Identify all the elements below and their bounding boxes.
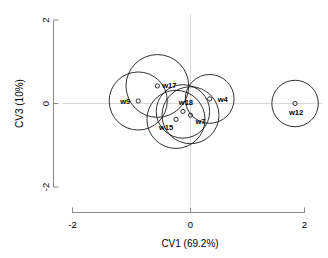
x-tick-label-neg2: -2 — [68, 219, 76, 230]
y-axis-title: CV3 (10%) — [14, 79, 25, 128]
marker-w9 — [136, 99, 140, 103]
x-tick-label-0: 0 — [188, 219, 193, 230]
point-label-w12: w12 — [288, 108, 303, 117]
confidence-circle-w17 — [126, 55, 189, 118]
marker-w18 — [181, 109, 185, 113]
scatter-plot-figure: 2 0 -2 CV3 (10%) -2 0 2 CV1 (69.2%) w9w1… — [0, 0, 328, 258]
marker-w4 — [208, 97, 212, 101]
marker-w17 — [155, 84, 159, 88]
x-axis: -2 0 2 CV1 (69.2%) — [68, 208, 307, 250]
y-tick-label-0: 0 — [40, 101, 51, 106]
plot-canvas: 2 0 -2 CV3 (10%) -2 0 2 CV1 (69.2%) w9w1… — [0, 0, 328, 258]
x-axis-title: CV1 (69.2%) — [161, 238, 218, 249]
y-tick-label-neg2: -2 — [40, 183, 51, 191]
x-tick-label-2: 2 — [302, 219, 307, 230]
point-label-w4: w4 — [217, 95, 229, 104]
data-points-layer: w9w17w18w15w7w4w12 — [109, 55, 318, 149]
data-point-w17[interactable]: w17 — [126, 55, 189, 118]
y-tick-label-2: 2 — [40, 17, 51, 22]
y-axis: 2 0 -2 CV3 (10%) — [14, 17, 59, 191]
marker-w15 — [174, 117, 178, 121]
